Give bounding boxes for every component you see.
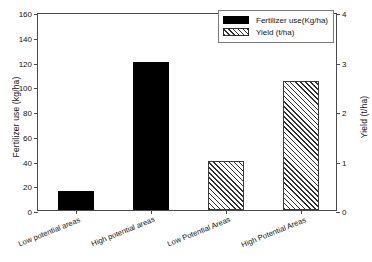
bar-3 <box>208 161 244 211</box>
y-axis-right-tick <box>336 212 340 213</box>
y-axis-right-tick <box>336 113 340 114</box>
y-axis-left-tick <box>34 88 38 89</box>
y-axis-left-tick-label: 100 <box>19 84 32 93</box>
x-axis-label: High potential areas <box>90 215 156 249</box>
y-axis-left-tick <box>34 39 38 40</box>
y-axis-left-tick <box>34 163 38 164</box>
x-axis-tick <box>226 210 227 214</box>
legend-label-yield: Yield (t/ha) <box>256 28 294 37</box>
y-axis-right-tick-label: 2 <box>342 109 346 118</box>
bar-1 <box>58 191 94 210</box>
y-axis-left-tick-label: 40 <box>23 158 32 167</box>
y-axis-left-tick <box>34 64 38 65</box>
y-axis-left-tick <box>34 14 38 15</box>
legend-item: Fertilizer use(Kg/ha) <box>223 14 329 26</box>
y-axis-right-tick-label: 1 <box>342 158 346 167</box>
legend-swatch-yield <box>223 28 249 36</box>
y-axis-left-tick-label: 120 <box>19 59 32 68</box>
x-axis-tick <box>76 210 77 214</box>
legend-label-fertilizer: Fertilizer use(Kg/ha) <box>256 16 328 25</box>
y-axis-left-tick <box>34 187 38 188</box>
y-axis-right-tick-label: 0 <box>342 208 346 217</box>
x-axis-tick <box>151 210 152 214</box>
chart-legend: Fertilizer use(Kg/ha) Yield (t/ha) <box>218 10 334 43</box>
y-axis-left-tick-label: 140 <box>19 34 32 43</box>
x-axis-label: Low Potential Areas <box>166 215 232 248</box>
y-axis-left-tick <box>34 113 38 114</box>
y-axis-right-tick <box>336 64 340 65</box>
y-axis-left-tick <box>34 138 38 139</box>
chart-figure: Fertilizer use (kg/ha) Yield (t/ha) 0204… <box>0 0 372 262</box>
y-axis-right-tick-label: 3 <box>342 59 346 68</box>
y-axis-left-title: Fertilizer use (kg/ha) <box>11 57 21 177</box>
y-axis-right-tick <box>336 14 340 15</box>
legend-item: Yield (t/ha) <box>223 26 329 38</box>
y-axis-left-tick-label: 60 <box>23 133 32 142</box>
y-axis-right-title: Yield (t/ha) <box>359 57 369 177</box>
x-axis-tick <box>301 210 302 214</box>
y-axis-left-tick-label: 0 <box>28 208 32 217</box>
bar-4 <box>283 81 319 210</box>
y-axis-left-tick-label: 160 <box>19 10 32 19</box>
bar-2 <box>133 62 169 211</box>
y-axis-left-tick <box>34 212 38 213</box>
y-axis-right-tick <box>336 163 340 164</box>
x-axis-label: High Potential Areas <box>240 215 307 249</box>
y-axis-right-tick-label: 4 <box>342 10 346 19</box>
y-axis-left-tick-label: 80 <box>23 109 32 118</box>
y-axis-left-tick-label: 20 <box>23 183 32 192</box>
legend-swatch-fertilizer <box>223 16 249 24</box>
x-axis-label: Low potential areas <box>17 215 81 248</box>
